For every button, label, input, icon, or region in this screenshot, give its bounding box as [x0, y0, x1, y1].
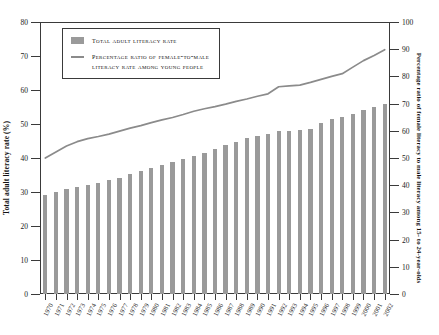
x-axis-tick [56, 294, 57, 300]
y-axis-right-tick-label: 90 [402, 45, 410, 54]
y-axis-right-tick [390, 158, 399, 159]
y-axis-right-tick-label: 40 [402, 181, 410, 190]
y-axis-right-tick [390, 212, 399, 213]
y-axis-right-tick [390, 131, 399, 132]
x-axis-tick-label: 2002 [381, 302, 394, 317]
y-axis-right-tick [390, 267, 399, 268]
x-axis-tick [77, 294, 78, 300]
x-axis-tick [45, 294, 46, 300]
y-axis-right-tick-label: 50 [402, 154, 410, 163]
y-axis-left-tick [31, 294, 40, 295]
literacy-chart: Total adult literacy rate (%) Percentage… [0, 0, 439, 335]
y-axis-right-tick [390, 49, 399, 50]
y-axis-right-tick [390, 104, 399, 105]
legend-item-female-to-male-ratio: Percentage ratio of female-to-male liter… [71, 51, 209, 72]
y-axis-right-tick [390, 240, 399, 241]
y-axis-right-tick [390, 76, 399, 77]
x-axis-tick [268, 294, 269, 300]
y-axis-left-tick [31, 226, 40, 227]
y-axis-left-tick-label: 10 [21, 256, 29, 265]
y-axis-left-tick-label: 80 [21, 18, 29, 27]
x-axis-tick [120, 294, 121, 300]
y-axis-right-tick-label: 30 [402, 208, 410, 217]
y-axis-right-title: Percentage ratio of female literacy to m… [416, 52, 423, 283]
x-axis-tick [183, 294, 184, 300]
legend-item-label: Total adult literacy rate [92, 35, 177, 46]
legend-item-label: Percentage ratio of female-to-male liter… [92, 51, 209, 72]
x-axis-tick [342, 294, 343, 300]
x-axis-tick [257, 294, 258, 300]
y-axis-left-tick [31, 22, 40, 23]
x-axis-tick [226, 294, 227, 300]
x-axis-tick [385, 294, 386, 300]
y-axis-left-tick [31, 158, 40, 159]
y-axis-left-tick-label: 0 [24, 290, 28, 299]
x-axis-tick [88, 294, 89, 300]
y-axis-right-tick-label: 0 [402, 290, 406, 299]
y-axis-right-tick-label: 20 [402, 235, 410, 244]
x-axis-tick-label: 1970 [42, 302, 55, 317]
x-axis-tick [247, 294, 248, 300]
y-axis-left-tick [31, 56, 40, 57]
x-axis-tick [173, 294, 174, 300]
legend-item-label-line2: literacy rate among young people [92, 62, 209, 72]
y-axis-left-tick-label: 70 [21, 52, 29, 61]
bar-swatch-icon [71, 37, 84, 44]
x-axis-tick [194, 294, 195, 300]
legend-item-label-line1: Percentage ratio of female-to-male [92, 52, 209, 61]
x-axis-tick [310, 294, 311, 300]
y-axis-left-tick-label: 50 [21, 120, 29, 129]
x-axis-tick [204, 294, 205, 300]
y-axis-right-tick [390, 185, 399, 186]
x-axis-tick [98, 294, 99, 300]
x-axis-tick [321, 294, 322, 300]
y-axis-left-tick-label: 40 [21, 154, 29, 163]
x-axis-tick [300, 294, 301, 300]
x-axis-tick [162, 294, 163, 300]
y-axis-right-tick [390, 294, 399, 295]
y-axis-right-tick [390, 22, 399, 23]
x-axis-tick [67, 294, 68, 300]
y-axis-right-tick-label: 100 [402, 18, 413, 27]
y-axis-left-tick [31, 124, 40, 125]
x-axis-tick [374, 294, 375, 300]
x-axis-tick [215, 294, 216, 300]
x-axis-tick [236, 294, 237, 300]
x-axis-tick [353, 294, 354, 300]
y-axis-left-tick [31, 192, 40, 193]
y-axis-left-tick-label: 60 [21, 86, 29, 95]
x-axis-tick [363, 294, 364, 300]
y-axis-right-tick-label: 80 [402, 72, 410, 81]
x-axis-tick [279, 294, 280, 300]
y-axis-left-tick-label: 20 [21, 222, 29, 231]
y-axis-right-tick-label: 70 [402, 99, 410, 108]
legend: Total adult literacy rate Percentage rat… [62, 28, 220, 79]
x-axis-tick [130, 294, 131, 300]
x-axis-tick [151, 294, 152, 300]
x-axis-tick [289, 294, 290, 300]
y-axis-right-tick-label: 10 [402, 262, 410, 271]
x-axis-tick [332, 294, 333, 300]
line-swatch-icon [71, 56, 84, 58]
y-axis-left-tick-label: 30 [21, 188, 29, 197]
x-axis-tick [109, 294, 110, 300]
x-axis-tick [141, 294, 142, 300]
y-axis-right-tick-label: 60 [402, 126, 410, 135]
y-axis-left-tick [31, 90, 40, 91]
legend-item-total-adult-literacy-rate: Total adult literacy rate [71, 35, 209, 46]
y-axis-left-tick [31, 260, 40, 261]
